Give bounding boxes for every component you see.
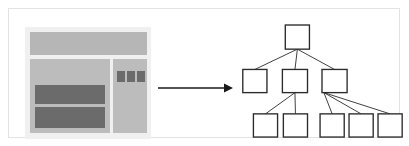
wireframe-sidebar-panel	[113, 59, 147, 133]
tree-edge	[255, 49, 298, 69]
tree-node[interactable]	[349, 114, 373, 137]
webpage-wireframe	[25, 27, 151, 139]
tree-node-group	[243, 25, 402, 137]
wireframe-main-content	[30, 59, 110, 133]
wireframe-header-bar	[30, 32, 147, 55]
wireframe-sidebar-chip-3	[137, 71, 145, 82]
tree-edge	[324, 93, 332, 114]
wireframe-sidebar-chip-1	[117, 71, 125, 82]
tree-node[interactable]	[285, 25, 309, 49]
tree-node[interactable]	[378, 114, 402, 137]
arrow-head-icon	[224, 84, 233, 93]
maps-to-arrow	[157, 75, 235, 101]
tree-node[interactable]	[282, 69, 307, 92]
tree-node[interactable]	[320, 114, 344, 137]
tree-edge	[265, 93, 294, 114]
figure-container	[0, 0, 409, 146]
tree-node[interactable]	[243, 69, 267, 92]
tree-edge	[324, 93, 390, 114]
tree-edge	[297, 49, 334, 69]
figure-frame	[8, 8, 400, 138]
wireframe-content-block-2	[35, 107, 105, 128]
wireframe-sidebar-chip-2	[127, 71, 135, 82]
tree-svg	[237, 19, 407, 145]
tree-node[interactable]	[322, 69, 347, 92]
tree-node[interactable]	[283, 114, 307, 137]
tree-node[interactable]	[253, 114, 277, 137]
tree-edge	[295, 49, 297, 69]
wireframe-content-block-1	[35, 85, 105, 104]
dom-tree-diagram	[237, 19, 407, 145]
